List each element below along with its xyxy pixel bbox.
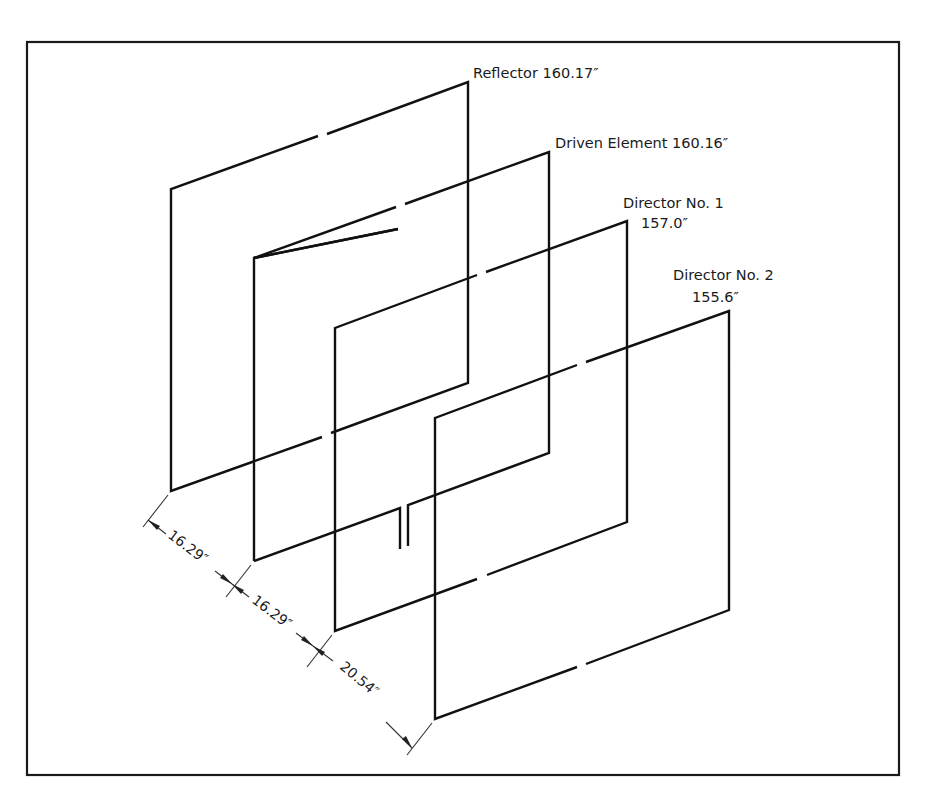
driven-element-loop — [254, 152, 549, 561]
reflector-label: Reflector 160.17″ — [473, 65, 599, 81]
quad-antenna-drawing: Reflector 160.17″ Driven Element 160.16″… — [0, 0, 928, 794]
spacing-label-1: 16.29″ — [165, 527, 211, 567]
director-1-length: 157.0″ — [641, 215, 689, 231]
spacing-label-2: 16.29″ — [249, 592, 295, 632]
director-2-label: Director No. 2 — [673, 267, 774, 283]
director-2-loop — [435, 311, 729, 719]
director-1-loop — [335, 221, 627, 631]
spacing-label-3: 20.54″ — [337, 658, 382, 699]
driven-element-label: Driven Element 160.16″ — [555, 135, 729, 151]
reflector-loop — [171, 82, 468, 491]
director-2-length: 155.6″ — [692, 289, 740, 305]
director-1-label: Director No. 1 — [623, 195, 724, 211]
